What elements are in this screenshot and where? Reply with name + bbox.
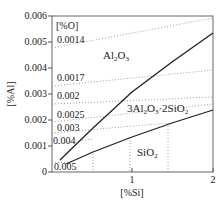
x-tick-1: 1 xyxy=(130,174,135,185)
y-tick-0.006: 0.006 xyxy=(25,10,48,21)
y-tick-0.002: 0.002 xyxy=(25,114,48,125)
iso-label-0.0025: 0.0025 xyxy=(57,109,85,120)
y-tick-0.003: 0.003 xyxy=(25,88,48,99)
region-mullite: 3Al2O3·2SiO2 xyxy=(127,102,189,116)
iso-label-0.002: 0.002 xyxy=(57,90,80,101)
boundary-al2o3-mullite xyxy=(60,33,213,160)
region-sio2: SiO2 xyxy=(137,146,158,160)
region-al2o3: Al2O3 xyxy=(103,49,129,63)
iso-label-0.005: 0.005 xyxy=(54,161,77,172)
iso-label-0.003: 0.003 xyxy=(57,122,80,133)
x-tick-2: 2 xyxy=(211,174,216,185)
y-tick-0.004: 0.004 xyxy=(25,62,48,73)
x-axis-title: [%Si] xyxy=(120,187,143,198)
y-axis-title: [%Al] xyxy=(5,82,16,107)
chart: 0 0.001 0.002 0.003 0.004 0.005 0.006 1 … xyxy=(0,0,222,206)
y-tick-0.005: 0.005 xyxy=(25,36,48,47)
iso-label-0.0017: 0.0017 xyxy=(57,72,85,83)
iso-label-0.0014: 0.0014 xyxy=(57,34,85,45)
iso-header: [%O] xyxy=(56,20,78,31)
y-tick-0.001: 0.001 xyxy=(25,140,48,151)
iso-label-0.004: 0.004 xyxy=(53,135,76,146)
x-axis xyxy=(132,168,213,172)
y-tick-0: 0 xyxy=(42,166,47,177)
y-axis xyxy=(48,16,52,172)
